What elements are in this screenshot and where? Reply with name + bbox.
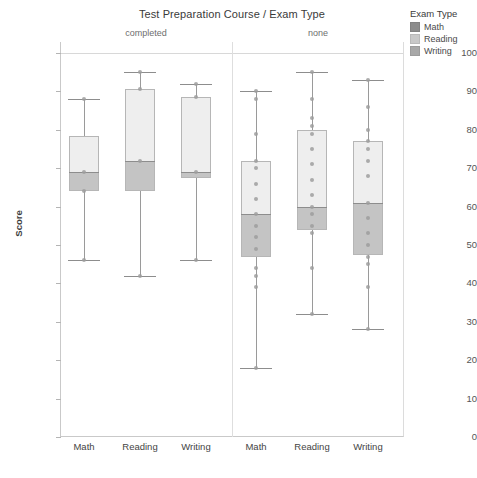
data-point — [366, 262, 370, 266]
y-tick-label: 60 — [423, 201, 477, 212]
data-point — [138, 274, 142, 278]
data-point — [254, 224, 258, 228]
data-point — [366, 327, 370, 331]
data-point — [310, 266, 314, 270]
data-point — [366, 285, 370, 289]
data-point — [366, 105, 370, 109]
data-point — [310, 97, 314, 101]
legend: Exam Type MathReadingWriting — [410, 8, 477, 58]
data-point — [254, 97, 258, 101]
data-point — [366, 159, 370, 163]
data-point — [310, 224, 314, 228]
box-median-q1 — [125, 161, 155, 192]
legend-item-label: Reading — [424, 34, 458, 44]
whisker-lower — [196, 178, 197, 261]
legend-item-math[interactable]: Math — [410, 22, 477, 32]
data-point — [366, 147, 370, 151]
legend-title: Exam Type — [410, 8, 477, 19]
data-point — [310, 116, 314, 120]
data-point — [138, 159, 142, 163]
data-point — [310, 70, 314, 74]
data-point — [194, 82, 198, 86]
data-point — [254, 132, 258, 136]
data-point — [310, 231, 314, 235]
legend-item-writing[interactable]: Writing — [410, 46, 477, 56]
data-point — [254, 266, 258, 270]
legend-item-label: Writing — [424, 46, 452, 56]
y-tick-label: 70 — [423, 162, 477, 173]
box-q3-median — [181, 97, 211, 172]
data-point — [82, 97, 86, 101]
data-point — [310, 124, 314, 128]
data-point — [366, 201, 370, 205]
data-point — [366, 174, 370, 178]
boxplot — [328, 0, 408, 478]
y-tick-label: 80 — [423, 124, 477, 135]
chart-canvas: Test Preparation Course / Exam Type comp… — [0, 0, 477, 478]
data-point — [366, 243, 370, 247]
whisker-upper — [84, 99, 85, 135]
legend-swatch-icon — [410, 46, 420, 56]
whisker-lower — [140, 191, 141, 275]
data-point — [254, 159, 258, 163]
y-axis-title: Score — [13, 194, 24, 254]
data-point — [366, 255, 370, 259]
data-point — [366, 128, 370, 132]
y-tick-label: 30 — [423, 316, 477, 327]
y-tick-label: 0 — [423, 431, 477, 442]
data-point — [254, 89, 258, 93]
legend-item-label: Math — [424, 22, 444, 32]
data-point — [310, 178, 314, 182]
data-point — [82, 170, 86, 174]
whisker-upper — [368, 80, 369, 141]
box-q3-median — [125, 89, 155, 160]
whisker-lower — [84, 191, 85, 260]
data-point — [254, 366, 258, 370]
data-point — [254, 285, 258, 289]
data-point — [254, 247, 258, 251]
box-q3-median — [69, 136, 99, 172]
whisker-upper — [256, 91, 257, 160]
y-tick-label: 50 — [423, 239, 477, 250]
data-point — [254, 274, 258, 278]
data-point — [254, 197, 258, 201]
legend-item-reading[interactable]: Reading — [410, 34, 477, 44]
legend-swatch-icon — [410, 22, 420, 32]
data-point — [194, 258, 198, 262]
y-tick-label: 20 — [423, 354, 477, 365]
data-point — [138, 70, 142, 74]
legend-swatch-icon — [410, 34, 420, 44]
y-tick-label: 90 — [423, 85, 477, 96]
y-tick-label: 40 — [423, 277, 477, 288]
data-point — [82, 189, 86, 193]
data-point — [194, 170, 198, 174]
data-point — [254, 182, 258, 186]
data-point — [310, 312, 314, 316]
data-point — [310, 132, 314, 136]
whisker-lower — [312, 230, 313, 314]
data-point — [82, 258, 86, 262]
data-point — [310, 205, 314, 209]
data-point — [366, 78, 370, 82]
legend-items: MathReadingWriting — [410, 22, 477, 56]
data-point — [310, 147, 314, 151]
y-tick-label: 10 — [423, 393, 477, 404]
